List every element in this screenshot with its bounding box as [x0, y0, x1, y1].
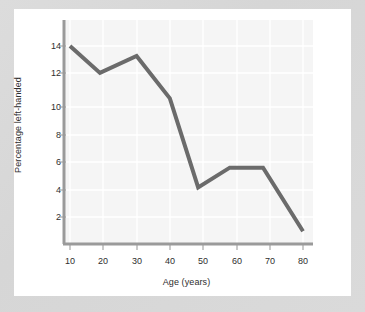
screenshot-root: Percentage left-handed Age (years) 2 4 6… — [0, 0, 365, 312]
line-chart: Percentage left-handed Age (years) 2 4 6… — [0, 0, 365, 312]
plot-area — [0, 0, 365, 312]
plot-background — [63, 20, 313, 244]
